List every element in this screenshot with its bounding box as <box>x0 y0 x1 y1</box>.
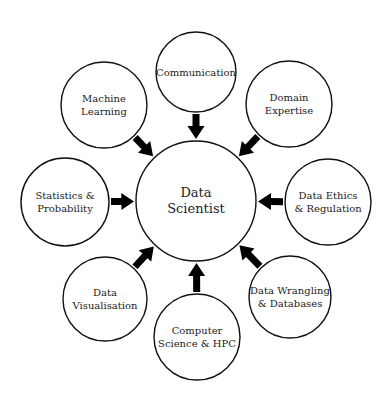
node-circle <box>285 159 371 245</box>
arrow-icon-data-wrangling-databases <box>239 245 262 268</box>
node-computer-science-hpc: ComputerScience & HPC <box>154 294 240 380</box>
node-label: Scientist <box>167 201 225 216</box>
node-label: Data <box>93 287 117 298</box>
node-circle <box>154 294 240 380</box>
arrow-icon-machine-learning <box>133 135 154 156</box>
node-domain-expertise: DomainExpertise <box>246 61 332 147</box>
node-circle <box>249 256 331 338</box>
node-label: & Regulation <box>294 203 362 214</box>
node-label: Probability <box>37 203 93 214</box>
arrow-icon-data-visualisation <box>132 246 153 269</box>
node-label: Visualisation <box>72 300 139 311</box>
node-circle <box>61 62 147 148</box>
node-circle <box>246 61 332 147</box>
node-data-scientist: DataScientist <box>136 141 256 261</box>
arrow-icon-domain-expertise <box>239 134 261 156</box>
node-label: Data <box>180 185 211 200</box>
node-label: Expertise <box>265 105 313 116</box>
node-label: Data Wrangling <box>250 285 330 296</box>
nodes-layer: DataScientistCommunicationDomainExpertis… <box>21 32 371 380</box>
node-data-wrangling-databases: Data Wrangling& Databases <box>249 256 331 338</box>
node-label: Statistics & <box>35 190 94 201</box>
node-data-visualisation: DataVisualisation <box>63 257 147 341</box>
node-circle <box>63 257 147 341</box>
node-label: Communication <box>156 67 237 78</box>
node-communication: Communication <box>156 32 237 112</box>
data-scientist-diagram: DataScientistCommunicationDomainExpertis… <box>0 0 391 403</box>
node-label: Data Ethics <box>299 190 358 201</box>
arrow-icon-statistics-probability <box>111 193 134 210</box>
node-circle <box>21 158 109 246</box>
node-label: Learning <box>81 106 127 117</box>
node-label: Machine <box>82 93 126 104</box>
node-machine-learning: MachineLearning <box>61 62 147 148</box>
node-label: Science & HPC <box>158 338 236 349</box>
node-data-ethics-regulation: Data Ethics& Regulation <box>285 159 371 245</box>
arrow-icon-data-ethics-regulation <box>258 193 283 210</box>
node-label: Domain <box>269 92 309 103</box>
arrow-icon-communication <box>188 114 205 139</box>
arrow-icon-computer-science-hpc <box>188 263 205 292</box>
node-statistics-probability: Statistics &Probability <box>21 158 109 246</box>
node-label: Computer <box>172 325 223 336</box>
node-label: & Databases <box>258 298 323 309</box>
